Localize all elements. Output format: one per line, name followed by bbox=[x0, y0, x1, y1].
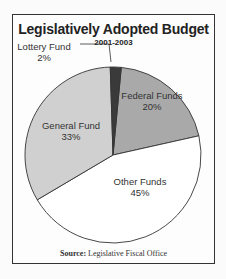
lottery-leader-line bbox=[80, 44, 111, 62]
label-value: 20% bbox=[142, 101, 162, 112]
label-value: 33% bbox=[61, 131, 81, 142]
pie-chart: Lottery Fund 2% Federal Funds 20% Genera… bbox=[0, 0, 226, 279]
label-value: 2% bbox=[37, 52, 51, 63]
label-name: General Fund bbox=[42, 120, 100, 131]
label-name: Other Funds bbox=[114, 176, 167, 187]
label-name: Lottery Fund bbox=[17, 41, 70, 52]
slice-label-lottery: Lottery Fund 2% bbox=[17, 41, 70, 63]
label-value: 45% bbox=[130, 187, 150, 198]
label-name: Federal Funds bbox=[121, 90, 183, 101]
